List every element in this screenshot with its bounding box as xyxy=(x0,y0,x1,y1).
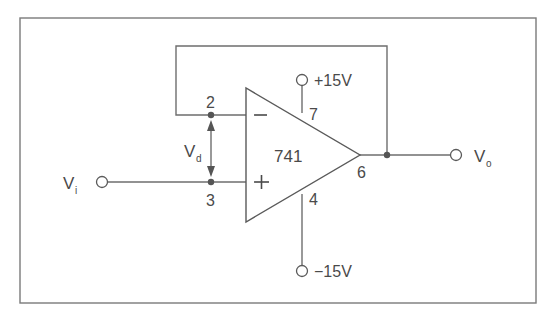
vd-arrow-up-icon xyxy=(207,120,215,131)
positive-supply-label: +15V xyxy=(314,72,352,89)
input-terminal-icon xyxy=(97,177,108,188)
node-pin3-dot xyxy=(208,179,214,185)
vi-label-sub: i xyxy=(75,185,77,196)
negative-supply-label: −15V xyxy=(314,263,352,280)
negative-supply-terminal-icon xyxy=(297,266,308,277)
node-output-dot xyxy=(384,152,390,158)
opamp-triangle xyxy=(246,88,360,222)
vd-arrow-down-icon xyxy=(207,166,215,177)
node-pin2-dot xyxy=(208,112,214,118)
vd-label: V xyxy=(184,142,196,161)
vo-label-sub: o xyxy=(486,158,492,169)
circuit-diagram: 741 2 3 7 4 6 +15V −15V V d V i V o xyxy=(0,0,549,318)
vi-label: V xyxy=(63,174,75,193)
pin-4-label: 4 xyxy=(309,191,318,208)
positive-supply-terminal-icon xyxy=(297,75,308,86)
vo-label: V xyxy=(474,147,486,166)
pin-6-label: 6 xyxy=(357,164,366,181)
opamp-label: 741 xyxy=(274,147,302,166)
pin-7-label: 7 xyxy=(309,106,318,123)
pin-3-label: 3 xyxy=(206,192,215,209)
output-terminal-icon xyxy=(451,150,462,161)
vd-label-sub: d xyxy=(196,153,202,164)
pin-2-label: 2 xyxy=(206,94,215,111)
